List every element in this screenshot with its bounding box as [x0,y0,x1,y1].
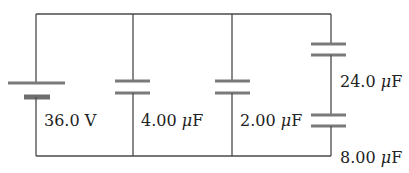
capacitor-2uF [215,14,250,156]
capacitor-2uF-label: 2.00 μF [240,111,302,130]
battery-label: 36.0 V [44,111,97,130]
capacitor-4uF-label: 4.00 μF [141,111,203,130]
capacitor-4uF [115,14,150,156]
circuit-diagram: 36.0 V 4.00 μF 2.00 μF 24.0 μF 8.00 μF [0,0,409,173]
battery [8,14,65,156]
capacitor-8uF-label: 8.00 μF [340,148,402,167]
capacitor-24uF-label: 24.0 μF [340,72,402,91]
